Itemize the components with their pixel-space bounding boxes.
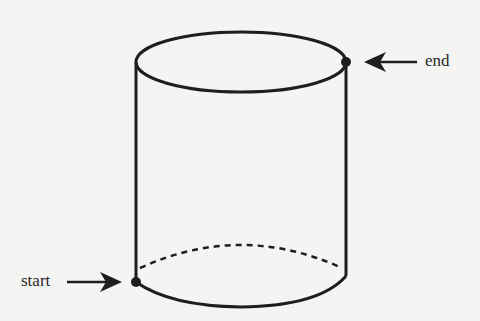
bottom-back-dashed-arc: [140, 245, 342, 268]
end-arrow-icon: [364, 52, 417, 72]
start-arrow-icon: [67, 272, 122, 292]
end-point-dot: [341, 57, 351, 67]
top-ellipse: [136, 32, 346, 92]
start-point-dot: [131, 277, 141, 287]
bottom-front-arc: [136, 276, 346, 307]
start-label: start: [21, 271, 50, 291]
cylinder-diagram: [0, 0, 480, 321]
end-label: end: [425, 51, 450, 71]
